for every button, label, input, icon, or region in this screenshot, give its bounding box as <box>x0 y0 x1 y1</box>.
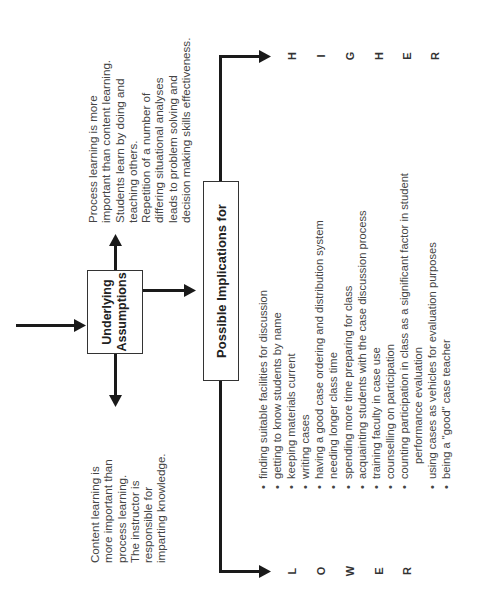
lower-letter: E <box>373 565 385 577</box>
implication-text: counting participation in class as a sig… <box>398 173 410 479</box>
content-assumption-line: responsible for <box>141 453 154 563</box>
implication-item: •spending more time preparing for class <box>341 173 355 489</box>
implication-item: •acquainting students with the case disc… <box>355 173 369 489</box>
assumptions-label: Assumptions <box>115 272 130 351</box>
implication-item: •being a "good" case teacher <box>439 173 453 489</box>
implication-item-continuation: performance evaluation <box>411 173 425 489</box>
right-assumption-arrow-head-icon <box>109 234 122 246</box>
implication-text: using cases as vehicles for evaluation p… <box>426 242 438 479</box>
implications-list: •finding suitable facilities for discuss… <box>256 173 453 489</box>
lower-letter: O <box>315 565 327 577</box>
content-assumption-line: imparting knowledge. <box>154 453 167 563</box>
process-assumption-line: Repetition of a number of <box>139 38 152 223</box>
lower-letter: L <box>286 565 298 577</box>
implication-text: acquainting students with the case discu… <box>356 210 368 479</box>
bullet-dot: • <box>312 485 326 489</box>
right-assumption-arrow-shaft <box>114 244 117 270</box>
case-method-assumptions-diagram: Underlying Assumptions Content learning … <box>0 0 480 603</box>
implications-arrow-shaft <box>143 289 187 292</box>
implication-item: •counselling on participation <box>383 173 397 489</box>
bullet-dot: • <box>270 485 284 489</box>
implication-item: •writing cases <box>298 173 312 489</box>
possible-implications-label: Possible Implications for <box>214 204 229 358</box>
implication-text: keeping materials current <box>285 353 297 479</box>
implications-arrow-head-icon <box>184 284 196 297</box>
process-assumption-line: differing situational analyses <box>152 38 165 223</box>
left-assumption-arrow-head-icon <box>109 395 122 407</box>
implication-item: •training faculty in case use <box>369 173 383 489</box>
content-assumption-line: process learning. <box>115 453 128 563</box>
implication-text: needing longer class time <box>327 352 339 479</box>
content-assumption-line: The instructor is <box>128 453 141 563</box>
implication-text: writing cases <box>299 414 311 479</box>
lower-arrow-head-icon <box>259 565 271 578</box>
process-learning-assumption: Process learning is more important than … <box>86 38 192 223</box>
implication-item: •needing longer class time <box>326 173 340 489</box>
bullet-dot: • <box>355 485 369 489</box>
implication-item: •having a good case ordering and distrib… <box>312 173 326 489</box>
implication-text: performance evaluation <box>412 347 424 464</box>
implication-item: •counting participation in class as a si… <box>397 173 411 489</box>
implication-text: spending more time preparing for class <box>342 286 354 479</box>
process-assumption-line: leads to problem solving and <box>166 38 179 223</box>
implication-text: counselling on participation <box>384 344 396 479</box>
process-assumption-line: Students learn by doing and <box>113 38 126 223</box>
bullet-dot: • <box>341 485 355 489</box>
left-assumption-arrow-shaft <box>114 354 117 397</box>
bullet-dot: • <box>256 485 270 489</box>
higher-letter: H <box>286 50 298 62</box>
process-assumption-line: Process learning is more <box>86 38 99 223</box>
possible-implications-box: Possible Implications for <box>203 181 239 381</box>
implication-text: being a "good" case teacher <box>440 339 452 479</box>
lower-letter: R <box>401 565 413 577</box>
incoming-arrow-head-icon <box>74 319 86 332</box>
incoming-arrow-shaft <box>16 324 76 327</box>
implication-item: •finding suitable facilities for discuss… <box>256 173 270 489</box>
bullet-dot: • <box>326 485 340 489</box>
implication-item: •keeping materials current <box>284 173 298 489</box>
implication-text: finding suitable facilities for discussi… <box>257 290 269 479</box>
process-assumption-line: decision making skills effectiveness. <box>179 38 192 223</box>
higher-letter: I <box>315 50 327 62</box>
bullet-dot: • <box>298 485 312 489</box>
content-assumption-line: more important than <box>101 453 114 563</box>
higher-letter: G <box>344 50 356 62</box>
bullet-dot: • <box>284 485 298 489</box>
implication-text: getting to know students by name <box>271 312 283 479</box>
bullet-dot: • <box>397 485 411 489</box>
underlying-assumptions-box: Underlying Assumptions <box>87 270 143 354</box>
implication-text: training faculty in case use <box>370 347 382 479</box>
bullet-dot: • <box>383 485 397 489</box>
bullet-dot: • <box>369 485 383 489</box>
lower-arrow-shaft <box>219 570 261 573</box>
bullet-dot: • <box>439 485 453 489</box>
content-assumption-line: Content learning is <box>88 453 101 563</box>
content-learning-assumption: Content learning is more important than … <box>88 453 168 563</box>
process-assumption-line: important than content learning. <box>99 38 112 223</box>
implication-item: •using cases as vehicles for evaluation … <box>425 173 439 489</box>
implication-item: •getting to know students by name <box>270 173 284 489</box>
bullet-dot: • <box>425 485 439 489</box>
higher-letter: H <box>373 50 385 62</box>
higher-arrow-head-icon <box>259 50 271 63</box>
higher-letter: R <box>429 50 441 62</box>
implication-text: having a good case ordering and distribu… <box>313 220 325 479</box>
process-assumption-line: teaching others. <box>126 38 139 223</box>
higher-arrow-shaft <box>219 55 261 58</box>
lower-letter: W <box>344 565 356 577</box>
underlying-label: Underlying <box>100 272 115 351</box>
higher-letter: E <box>401 50 413 62</box>
